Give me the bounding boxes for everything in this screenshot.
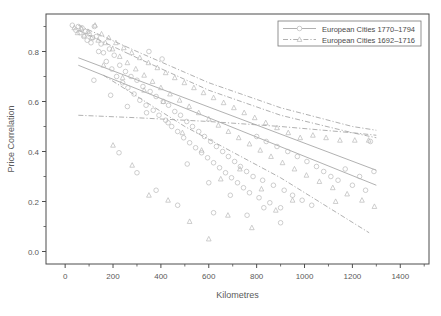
data-point-circle — [290, 193, 295, 198]
data-point-triangle — [304, 173, 309, 178]
data-point-triangle — [324, 135, 329, 140]
data-point-circle — [101, 50, 106, 55]
data-point-circle — [226, 154, 231, 159]
data-point-triangle — [290, 198, 295, 203]
data-point-triangle — [311, 133, 316, 138]
data-point-triangle — [199, 148, 204, 153]
data-point-circle — [169, 124, 174, 129]
x-tick-label: 0 — [63, 272, 68, 281]
data-point-triangle — [163, 70, 168, 75]
data-point-triangle — [211, 95, 216, 100]
data-point-circle — [108, 93, 113, 98]
data-point-circle — [247, 190, 252, 195]
legend-marker-circle — [297, 26, 302, 31]
data-point-circle — [271, 183, 276, 188]
data-point-circle — [190, 124, 195, 129]
data-point-circle — [112, 53, 117, 58]
data-point-circle — [175, 203, 180, 208]
data-point-triangle — [330, 185, 335, 190]
data-point-triangle — [182, 80, 187, 85]
data-point-circle — [214, 144, 219, 149]
data-point-circle — [245, 213, 250, 218]
data-point-triangle — [298, 135, 303, 140]
data-point-circle — [160, 57, 165, 62]
data-point-triangle — [236, 135, 241, 140]
data-point-circle — [89, 40, 94, 45]
ci-lower-1770-1794 — [103, 75, 369, 233]
data-point-circle — [336, 178, 341, 183]
legend-label-2: European Cities 1692–1716 — [322, 36, 415, 45]
data-point-circle — [372, 169, 377, 174]
data-point-triangle — [180, 130, 185, 135]
data-point-triangle — [232, 105, 237, 110]
data-point-triangle — [137, 55, 142, 60]
y-tick-label: 0.4 — [28, 148, 40, 157]
data-point-triangle — [221, 100, 226, 105]
data-point-triangle — [372, 204, 377, 209]
data-point-circle — [126, 85, 131, 90]
data-point-circle — [282, 188, 287, 193]
data-point-circle — [117, 63, 122, 68]
data-point-circle — [244, 169, 249, 174]
data-point-triangle — [292, 166, 297, 171]
data-point-circle — [96, 49, 101, 54]
y-tick-label: 0.2 — [28, 198, 40, 207]
data-point-circle — [205, 155, 210, 160]
data-point-triangle — [142, 73, 147, 78]
x-axis-title: Kilometres — [216, 290, 259, 300]
data-point-circle — [117, 150, 122, 155]
data-point-triangle — [286, 130, 291, 135]
x-tick-label: 1400 — [391, 272, 409, 281]
x-tick-label: 1000 — [296, 272, 314, 281]
data-point-triangle — [352, 138, 357, 143]
data-point-circle — [151, 108, 156, 113]
x-tick-label: 400 — [154, 272, 168, 281]
data-point-circle — [235, 180, 240, 185]
data-point-triangle — [269, 154, 274, 159]
data-point-circle — [193, 145, 198, 150]
data-point-circle — [278, 205, 283, 210]
data-point-triangle — [125, 60, 130, 65]
x-tick-label: 200 — [106, 272, 120, 281]
data-point-triangle — [242, 110, 247, 115]
data-point-circle — [350, 183, 355, 188]
data-point-circle — [309, 203, 314, 208]
data-point-triangle — [177, 98, 182, 103]
data-point-triangle — [250, 225, 255, 230]
y-tick-label: 0.8 — [28, 48, 40, 57]
data-point-triangle — [360, 198, 365, 203]
data-point-circle — [305, 159, 310, 164]
data-point-triangle — [166, 198, 171, 203]
data-point-triangle — [111, 143, 116, 148]
data-point-triangle — [187, 219, 192, 224]
data-point-circle — [220, 149, 225, 154]
data-point-triangle — [226, 129, 231, 134]
price-correlation-scatter-chart: 02004006008001000120014000.00.20.40.60.8… — [0, 0, 441, 316]
data-point-circle — [329, 174, 334, 179]
data-point-triangle — [133, 66, 138, 71]
data-point-circle — [228, 193, 233, 198]
data-point-circle — [295, 154, 300, 159]
x-tick-label: 600 — [202, 272, 216, 281]
fit-1770-1794 — [78, 65, 376, 185]
data-point-triangle — [338, 138, 343, 143]
data-point-circle — [125, 104, 130, 109]
data-point-circle — [343, 167, 348, 172]
data-point-circle — [123, 69, 128, 74]
y-axis-title: Price Correlation — [6, 105, 16, 172]
data-point-circle — [148, 89, 153, 94]
plot-data-area — [70, 23, 377, 241]
legend-label-1: European Cities 1770–1794 — [322, 25, 415, 34]
data-point-circle — [260, 178, 265, 183]
data-point-circle — [300, 198, 305, 203]
data-point-circle — [196, 129, 201, 134]
data-point-triangle — [130, 163, 135, 168]
y-tick-label: 0.6 — [28, 98, 40, 107]
data-point-circle — [181, 135, 186, 140]
data-point-circle — [92, 78, 97, 83]
ci-upper-1770-1794 — [78, 58, 376, 171]
data-point-circle — [232, 159, 237, 164]
data-point-triangle — [172, 75, 177, 80]
data-point-triangle — [120, 75, 125, 80]
data-point-circle — [184, 119, 189, 124]
